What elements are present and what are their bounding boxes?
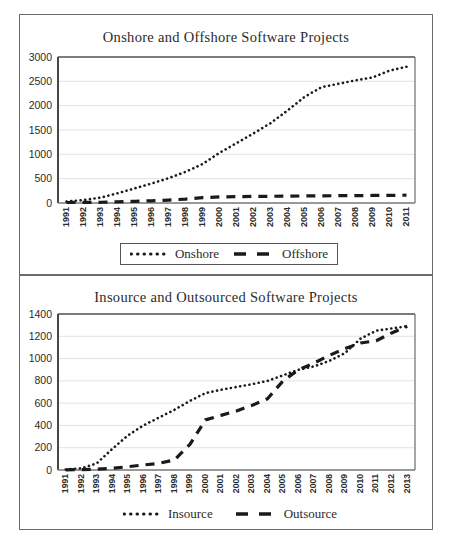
x-axis-tick-label: 2007 <box>308 474 318 493</box>
series-line-offshore <box>67 195 407 202</box>
x-axis-tick-label: 2009 <box>367 207 377 227</box>
x-axis-tick-label: 2013 <box>402 474 412 493</box>
x-axis-tick-label: 2003 <box>246 474 256 493</box>
y-axis-tick-label: 500 <box>34 172 52 184</box>
x-axis-tick-label: 2001 <box>215 474 225 493</box>
x-axis-tick-label: 2011 <box>370 474 380 493</box>
series-line-outsource <box>66 326 407 470</box>
x-axis-tick-label: 1998 <box>180 207 190 227</box>
x-axis-tick-label: 2002 <box>231 474 241 493</box>
y-axis-tick-label: 3000 <box>29 51 53 63</box>
chart-insource-outsource: Insource and Outsourced Software Project… <box>19 275 433 530</box>
x-axis-tick-label: 2011 <box>401 207 411 227</box>
legend-onshore-offshore: Onshore Offshore <box>120 243 338 265</box>
x-axis-tick-label: 1998 <box>169 474 179 493</box>
x-axis-tick-label: 2006 <box>293 474 303 493</box>
dotted-line-icon <box>123 510 163 518</box>
legend-label-outsource: Outsource <box>284 506 337 522</box>
x-axis-tick-label: 1996 <box>146 207 156 227</box>
y-axis-tick-label: 400 <box>34 419 52 431</box>
y-axis-tick-label: 200 <box>34 441 52 453</box>
x-axis-tick-label: 2012 <box>386 474 396 493</box>
x-axis-tick-label: 1999 <box>184 474 194 493</box>
x-axis-tick-label: 2004 <box>282 207 292 227</box>
plot-area-onshore-offshore: 0500100015002000250030001991199219931994… <box>20 15 434 276</box>
x-axis-tick-label: 1994 <box>107 474 117 493</box>
x-axis-tick-label: 1997 <box>153 474 163 493</box>
dashed-line-icon <box>233 250 277 258</box>
x-axis-tick-label: 2000 <box>200 474 210 493</box>
legend-entry-outsource: Outsource <box>235 506 337 522</box>
x-axis-tick-label: 1995 <box>122 474 132 493</box>
legend-label-offshore: Offshore <box>282 246 328 262</box>
x-axis-tick-label: 1994 <box>112 207 122 227</box>
plot-area-insource-outsource: 0200400600800100012001400199119921993199… <box>20 276 434 531</box>
x-axis-tick-label: 1996 <box>138 474 148 493</box>
x-axis-tick-label: 2001 <box>231 207 241 227</box>
x-axis-tick-label: 1993 <box>91 474 101 493</box>
x-axis-tick-label: 2000 <box>214 207 224 227</box>
x-axis-tick-label: 1993 <box>95 207 105 227</box>
legend-insource-outsource: Insource Outsource <box>110 504 350 524</box>
y-axis-tick-label: 2000 <box>29 99 53 111</box>
x-axis-tick-label: 1991 <box>61 207 71 227</box>
x-axis-tick-label: 1991 <box>60 474 70 493</box>
x-axis-tick-label: 2005 <box>299 207 309 227</box>
y-axis-tick-label: 1500 <box>29 124 53 136</box>
legend-entry-offshore: Offshore <box>233 246 328 262</box>
chart-onshore-offshore: Onshore and Offshore Software Projects 0… <box>19 14 433 275</box>
y-axis-tick-label: 0 <box>46 197 52 209</box>
x-axis-tick-label: 1992 <box>76 474 86 493</box>
x-axis-tick-label: 2007 <box>333 207 343 227</box>
legend-entry-onshore: Onshore <box>130 246 219 262</box>
x-axis-tick-label: 2009 <box>339 474 349 493</box>
legend-label-onshore: Onshore <box>175 246 219 262</box>
x-axis-tick-label: 2008 <box>324 474 334 493</box>
x-axis-tick-label: 2002 <box>248 207 258 227</box>
x-axis-tick-label: 2003 <box>265 207 275 227</box>
x-axis-tick-label: 2005 <box>277 474 287 493</box>
legend-label-insource: Insource <box>168 506 213 522</box>
x-axis-tick-label: 2008 <box>350 207 360 227</box>
figure-page: Onshore and Offshore Software Projects 0… <box>0 0 452 544</box>
y-axis-tick-label: 1000 <box>29 352 53 364</box>
x-axis-tick-label: 1992 <box>78 207 88 227</box>
y-axis-tick-label: 1000 <box>29 148 53 160</box>
x-axis-tick-label: 1995 <box>129 207 139 227</box>
y-axis-tick-label: 1400 <box>29 308 53 320</box>
legend-entry-insource: Insource <box>123 506 213 522</box>
x-axis-tick-label: 2004 <box>262 474 272 493</box>
x-axis-tick-label: 2010 <box>355 474 365 493</box>
x-axis-tick-label: 1997 <box>163 207 173 227</box>
y-axis-tick-label: 600 <box>34 397 52 409</box>
y-axis-tick-label: 0 <box>46 464 52 476</box>
y-axis-tick-label: 1200 <box>29 330 53 342</box>
x-axis-tick-label: 2006 <box>316 207 326 227</box>
series-line-onshore <box>67 67 407 202</box>
y-axis-tick-label: 2500 <box>29 75 53 87</box>
x-axis-tick-label: 2010 <box>384 207 394 227</box>
y-axis-tick-label: 800 <box>34 374 52 386</box>
dotted-line-icon <box>130 250 170 258</box>
x-axis-tick-label: 1999 <box>197 207 207 227</box>
dashed-line-icon <box>235 510 279 518</box>
